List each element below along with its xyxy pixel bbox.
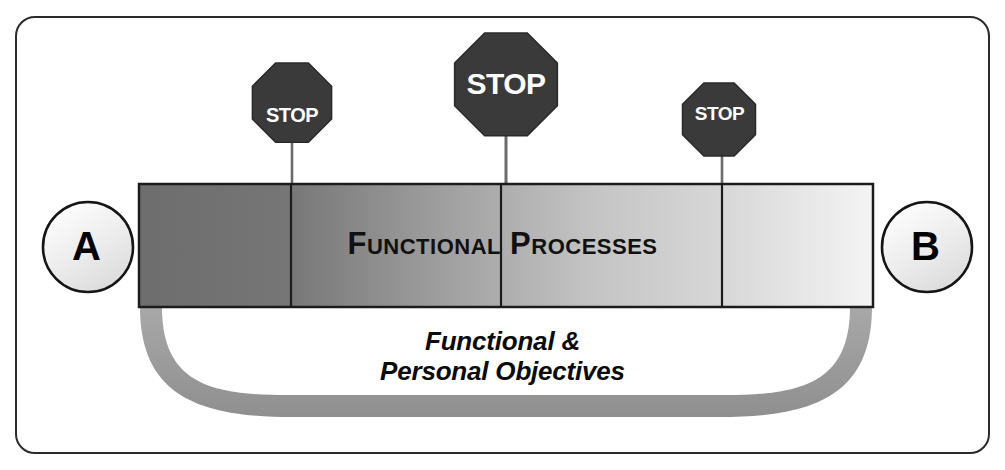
stop-sign-octagon-1 [252,63,331,142]
stop-sign-octagon-3 [683,83,756,156]
node-circle-b [882,202,972,292]
diagram-canvas: STOP STOP STOP A B Functional Processes … [0,0,1005,470]
objectives-arc [140,307,872,417]
diagram-graphics [0,0,1005,470]
node-circle-a [43,202,133,292]
process-bar [139,184,873,307]
stop-sign-octagon-2 [455,33,558,136]
